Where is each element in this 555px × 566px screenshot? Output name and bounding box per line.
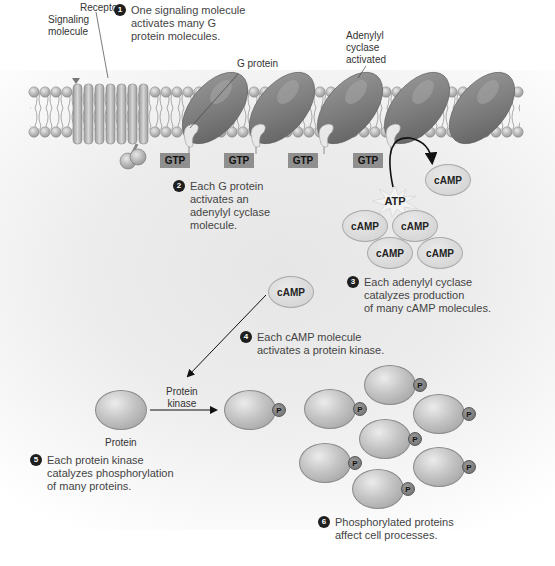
step-text: Each adenylyl cyclase catalyzes producti… — [364, 276, 491, 315]
step-number-badge: 2 — [173, 180, 185, 192]
step-text: Phosphorylated proteins affect cell proc… — [335, 516, 454, 542]
adenylyl-cyclase-label: Adenylyl cyclase activated — [346, 30, 386, 66]
step-3: 3 Each adenylyl cyclase catalyzes produc… — [347, 276, 491, 315]
gtp-tag: GTP — [288, 153, 318, 168]
phosphorylated-protein — [352, 469, 404, 509]
step-text: Each protein kinase catalyzes phosphoryl… — [47, 454, 174, 493]
atp-label: ATP — [384, 195, 405, 207]
phosphate-icon: P — [353, 402, 367, 416]
phosphorylated-protein — [304, 389, 356, 429]
phosphorylated-protein — [299, 443, 351, 483]
signaling-molecule-label: Signaling molecule — [48, 14, 89, 38]
camp-molecule: cAMP — [425, 164, 471, 196]
protein-kinase-label: Protein kinase — [166, 386, 198, 410]
phosphate-icon: P — [272, 403, 286, 417]
phosphorylated-protein — [413, 394, 465, 434]
unphosphorylated-protein — [95, 390, 147, 430]
phosphorylated-protein — [224, 390, 276, 430]
phosphorylated-protein — [364, 365, 416, 405]
step-number-badge: 6 — [318, 516, 330, 528]
step-text: Each G protein activates an adenylyl cyc… — [190, 180, 270, 232]
g-protein-label: G protein — [237, 58, 278, 70]
phosphorylated-protein — [413, 447, 465, 487]
protein-label: Protein — [105, 437, 137, 449]
step-text: Each cAMP molecule activates a protein k… — [257, 331, 384, 357]
phosphate-icon: P — [413, 378, 427, 392]
step-4: 4 Each cAMP molecule activates a protein… — [240, 331, 384, 357]
camp-molecule: cAMP — [417, 237, 463, 269]
step-number-badge: 5 — [30, 454, 42, 466]
step-number-badge: 1 — [114, 4, 126, 16]
phosphate-icon: P — [401, 482, 415, 496]
gtp-tag: GTP — [224, 153, 254, 168]
phosphate-icon: P — [408, 432, 422, 446]
step-number-badge: 3 — [347, 276, 359, 288]
camp-molecule: cAMP — [268, 276, 314, 308]
phosphorylated-protein — [359, 419, 411, 459]
phosphate-icon: P — [462, 407, 476, 421]
phosphate-icon: P — [348, 456, 362, 470]
step-1: 1 One signaling molecule activates many … — [114, 4, 245, 43]
step-text: One signaling molecule activates many G … — [131, 4, 245, 43]
camp-molecule: cAMP — [367, 237, 413, 269]
step-6: 6 Phosphorylated proteins affect cell pr… — [318, 516, 454, 542]
phosphate-icon: P — [462, 460, 476, 474]
step-number-badge: 4 — [240, 331, 252, 343]
gtp-tag: GTP — [353, 153, 383, 168]
step-5: 5 Each protein kinase catalyzes phosphor… — [30, 454, 174, 493]
step-2: 2 Each G protein activates an adenylyl c… — [173, 180, 270, 232]
gtp-tag: GTP — [160, 153, 190, 168]
